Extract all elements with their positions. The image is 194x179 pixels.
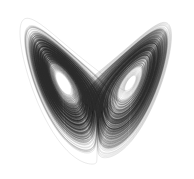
- attractor-figure: Lorenz attractor: [0, 0, 194, 179]
- attractor-canvas: [0, 0, 194, 179]
